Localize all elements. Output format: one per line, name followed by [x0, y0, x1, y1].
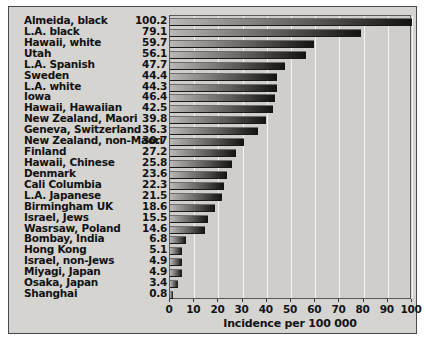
x-tick-mark	[338, 299, 339, 302]
chart-figure: Almeida, black100.2L.A. black79.1Hawaii,…	[8, 6, 417, 334]
bar	[170, 127, 258, 135]
bar	[170, 160, 232, 168]
category-label: Shanghai	[24, 287, 77, 299]
bar	[170, 171, 227, 179]
x-tick-label: 100	[400, 303, 421, 315]
bar	[170, 258, 182, 266]
x-tick-mark	[169, 299, 170, 302]
bar	[170, 236, 186, 244]
bar	[170, 73, 277, 81]
x-tick-mark	[193, 299, 194, 302]
gridline	[412, 16, 413, 298]
table-row: Shanghai0.8	[9, 288, 169, 299]
bar	[170, 40, 314, 48]
bar	[170, 51, 306, 59]
x-tick-mark	[411, 299, 412, 302]
bar	[170, 138, 244, 146]
bar	[170, 247, 182, 255]
x-axis-title: Incidence per 100 000	[169, 317, 411, 330]
x-tick-label: 10	[186, 303, 200, 315]
plot-area	[169, 15, 411, 299]
x-axis: Incidence per 100 000 010203040506070809…	[169, 299, 411, 333]
bar	[170, 182, 224, 190]
x-tick-label: 20	[210, 303, 224, 315]
bar	[170, 29, 361, 37]
bar	[170, 94, 275, 102]
bar	[170, 62, 285, 70]
x-tick-label: 30	[235, 303, 249, 315]
bar-series	[170, 17, 410, 298]
x-tick-label: 60	[307, 303, 321, 315]
value-label: 0.8	[149, 287, 167, 299]
x-tick-label: 90	[380, 303, 394, 315]
bar	[170, 84, 277, 92]
x-tick-mark	[242, 299, 243, 302]
x-tick-mark	[314, 299, 315, 302]
category-value-list: Almeida, black100.2L.A. black79.1Hawaii,…	[9, 15, 169, 299]
x-tick-label: 50	[283, 303, 297, 315]
x-tick-mark	[387, 299, 388, 302]
bar	[170, 204, 215, 212]
bar	[170, 149, 236, 157]
x-tick-mark	[217, 299, 218, 302]
x-tick-mark	[290, 299, 291, 302]
bar	[170, 105, 273, 113]
bar	[170, 215, 208, 223]
bar	[170, 226, 205, 234]
bar	[170, 269, 182, 277]
x-tick-label: 0	[165, 303, 172, 315]
bar	[170, 193, 222, 201]
bar	[170, 18, 412, 26]
x-tick-label: 80	[356, 303, 370, 315]
bar	[170, 116, 266, 124]
x-tick-mark	[363, 299, 364, 302]
x-tick-label: 40	[259, 303, 273, 315]
x-tick-mark	[266, 299, 267, 302]
bar	[170, 280, 178, 288]
bar	[170, 291, 173, 299]
x-tick-label: 70	[331, 303, 345, 315]
